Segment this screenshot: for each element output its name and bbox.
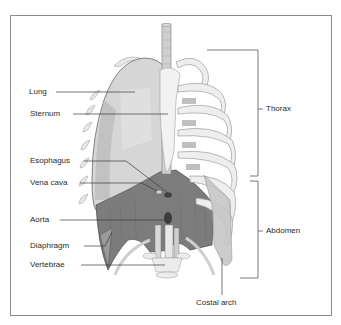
label-esophagus: Esophagus bbox=[30, 156, 70, 166]
aorta-shape bbox=[164, 212, 172, 224]
label-diaphragm: Diaphragm bbox=[30, 241, 69, 251]
esophagus-opening bbox=[165, 193, 172, 197]
label-vena-cava: Vena cava bbox=[30, 178, 67, 188]
label-abdomen: Abdomen bbox=[266, 226, 300, 236]
label-aorta: Aorta bbox=[30, 215, 49, 225]
label-thorax: Thorax bbox=[266, 104, 291, 114]
label-costal-arch: Costal arch bbox=[196, 298, 236, 308]
label-vertebrae: Vertebrae bbox=[30, 260, 65, 270]
label-lung: Lung bbox=[29, 87, 47, 97]
label-sternum: Sternum bbox=[30, 109, 60, 119]
